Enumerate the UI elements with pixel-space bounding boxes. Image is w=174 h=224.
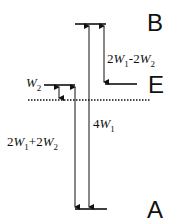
label-A: A [147,198,163,222]
label-W2: W2 [26,76,41,93]
energy-level-diagram: B E A W2 2W1-2W2 4W1 2W1+2W2 [0,0,174,224]
label-E: E [148,73,164,97]
label-2W1-minus-2W2: 2W1-2W2 [107,52,155,69]
label-B: B [147,11,163,35]
label-2W1-plus-2W2: 2W1+2W2 [7,135,58,152]
label-4W1: 4W1 [93,117,115,134]
